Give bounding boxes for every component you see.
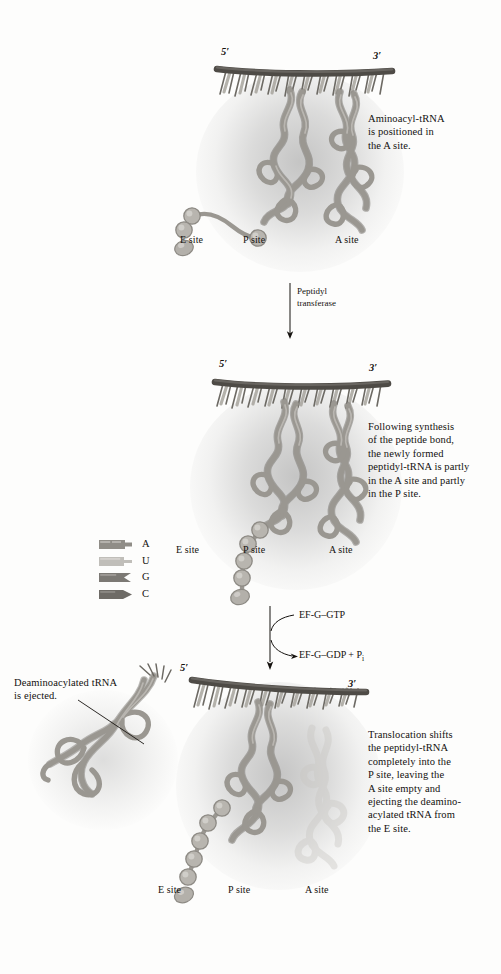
figure-canvas: 5′ 3′ bbox=[0, 0, 501, 974]
transition-2-label-out-text: EF-G–GDP + P bbox=[299, 649, 362, 660]
caption-panel-1: Aminoacyl-tRNA is positioned in the A si… bbox=[368, 112, 498, 152]
legend-item-c: C bbox=[99, 588, 150, 601]
caption-panel-2: Following synthesis of the peptide bond,… bbox=[368, 420, 501, 500]
site-label-p-panel-2: P site bbox=[243, 544, 265, 555]
transition-2-label-in: EF-G–GTP bbox=[299, 609, 345, 620]
nucleotide-c-icon bbox=[99, 590, 133, 599]
site-label-e-panel-1: E site bbox=[180, 234, 203, 245]
transition-2-label-out-subscript: i bbox=[362, 654, 364, 663]
site-label-e-panel-3: E site bbox=[158, 884, 181, 895]
mrna-5prime-label-panel-2: 5′ bbox=[219, 358, 227, 369]
nucleotide-g-icon bbox=[99, 573, 133, 582]
mrna-5prime-label-panel-3: 5′ bbox=[180, 662, 188, 673]
transition-label-1: Peptidyl transferase bbox=[297, 286, 377, 309]
annotation-leader-line bbox=[78, 700, 148, 746]
legend-letter-g: G bbox=[142, 572, 150, 583]
legend-item-g: G bbox=[99, 571, 150, 584]
polypeptide-chain-panel-2 bbox=[196, 520, 296, 616]
nucleotide-a-icon bbox=[99, 540, 133, 549]
annotation-ejected-trna: Deaminoacylated tRNA is ejected. bbox=[14, 676, 144, 703]
legend-letter-c: C bbox=[142, 589, 149, 600]
caption-panel-3: Translocation shifts the peptidyl-tRNA c… bbox=[368, 728, 501, 835]
legend-item-a: A bbox=[99, 538, 150, 551]
mrna-5prime-label-panel-1: 5′ bbox=[221, 46, 229, 57]
mrna-3prime-label-panel-3: 3′ bbox=[348, 678, 356, 689]
legend-letter-u: U bbox=[142, 556, 150, 567]
nucleotide-legend: A U G bbox=[99, 538, 150, 604]
legend-item-u: U bbox=[99, 555, 150, 568]
site-label-e-panel-2: E site bbox=[176, 544, 199, 555]
site-label-a-panel-1: A site bbox=[335, 234, 359, 245]
site-label-a-panel-2: A site bbox=[329, 544, 353, 555]
site-label-p-panel-1: P site bbox=[243, 234, 265, 245]
legend-letter-a: A bbox=[142, 539, 150, 550]
transition-2-label-out: EF-G–GDP + Pi bbox=[299, 649, 364, 663]
mrna-3prime-label-panel-1: 3′ bbox=[373, 50, 381, 61]
trna-ghost-a-site-panel-3 bbox=[284, 726, 370, 874]
site-label-p-panel-3: P site bbox=[228, 884, 250, 895]
mrna-3prime-label-panel-2: 3′ bbox=[369, 362, 377, 373]
nucleotide-u-icon bbox=[99, 557, 133, 566]
site-label-a-panel-3: A site bbox=[305, 884, 329, 895]
